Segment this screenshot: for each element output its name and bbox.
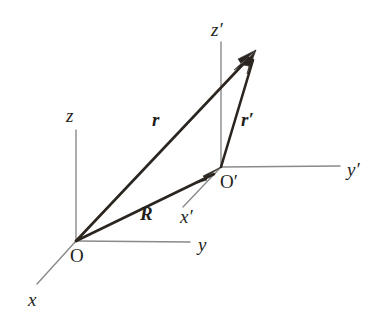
axis-label-z-prime: z′ [210,19,223,40]
axis-line-y-prime [221,166,340,167]
vector-label-r-prime: r′ [241,109,254,130]
point-label-origin: O [70,245,84,266]
axis-label-x: x [27,289,37,310]
vector-label-r: r [152,109,160,130]
diagram-canvas: x y z x′ y′ z′ O O′ r R r′ [0,0,381,328]
axis-label-y-prime: y′ [345,159,360,180]
axis-label-y: y [196,234,207,255]
vector-diagram-figure: x y z x′ y′ z′ O O′ r R r′ [0,0,381,328]
axis-label-x-prime: x′ [179,206,193,227]
point-label-origin-prime: O′ [220,171,238,192]
axis-line-y [76,241,190,242]
vector-label-R: R [139,203,153,224]
axis-label-z: z [65,105,74,126]
vector-line-r [76,58,249,241]
